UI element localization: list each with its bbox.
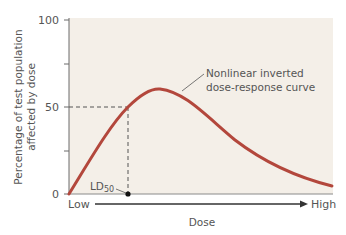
- y-tick-label-50: 50: [45, 101, 59, 114]
- ld50-point: [125, 191, 130, 196]
- plot-area: [69, 18, 333, 194]
- y-tick-label-0: 0: [52, 188, 59, 201]
- dose-response-chart: 100 50 0 Percentage of test population a…: [0, 0, 346, 235]
- y-axis-title-line2: affected by dose: [25, 63, 37, 151]
- curve-annotation-line2: dose-response curve: [206, 81, 315, 93]
- y-tick-label-100: 100: [38, 14, 59, 27]
- y-axis-title-line1: Percentage of test population: [12, 29, 24, 184]
- curve-annotation-line1: Nonlinear inverted: [206, 67, 304, 79]
- x-axis-high-label: High: [311, 198, 336, 211]
- x-axis-arrowhead-icon: [300, 201, 308, 208]
- x-axis-low-label: Low: [68, 198, 90, 211]
- x-axis-title: Dose: [189, 216, 215, 228]
